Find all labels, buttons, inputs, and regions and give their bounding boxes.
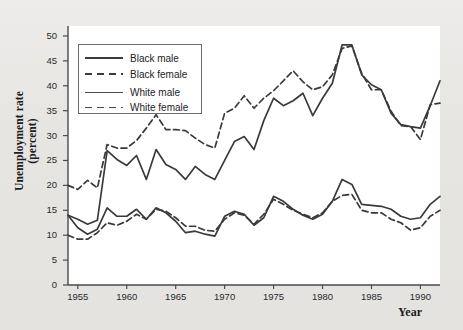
- x-axis-label: Year: [398, 305, 422, 320]
- legend: Black male Black female White male White…: [78, 44, 202, 114]
- legend-item-white-female: White female: [85, 100, 188, 114]
- y-axis-label-line2: (percent): [26, 46, 39, 236]
- x-tick-label: 1990: [400, 291, 440, 302]
- legend-swatch-dashed-icon: [85, 69, 123, 79]
- figure-page: 05101520253035404550 1955196019651970197…: [0, 0, 463, 330]
- x-tick-label: 1960: [107, 291, 147, 302]
- legend-label-white-female: White female: [130, 102, 188, 113]
- legend-item-white-male: White male: [85, 85, 180, 99]
- x-tick-label: 1965: [156, 291, 196, 302]
- x-tick-label: 1980: [303, 291, 343, 302]
- x-tick-label: 1970: [205, 291, 245, 302]
- legend-label-white-male: White male: [130, 87, 180, 98]
- legend-item-black-male: Black male: [85, 51, 179, 65]
- y-tick-label: 5: [35, 254, 57, 265]
- legend-swatch-solid-icon: [85, 53, 123, 63]
- x-tick-label: 1975: [254, 291, 294, 302]
- y-tick-label: 0: [35, 279, 57, 290]
- chart-canvas: [0, 0, 463, 330]
- legend-label-black-male: Black male: [130, 53, 179, 64]
- y-axis-label: Unemployment rate (percent): [13, 46, 39, 236]
- x-tick-label: 1985: [351, 291, 391, 302]
- legend-swatch-solid-thin-icon: [85, 87, 123, 97]
- x-tick-label: 1955: [58, 291, 98, 302]
- legend-item-black-female: Black female: [85, 67, 187, 81]
- y-tick-label: 50: [35, 30, 57, 41]
- legend-swatch-dashed-thin-icon: [85, 102, 123, 112]
- y-tick-marks: [63, 36, 68, 285]
- legend-label-black-female: Black female: [130, 69, 187, 80]
- unemployment-rate-chart: 05101520253035404550 1955196019651970197…: [0, 0, 463, 330]
- series-line-white-male: [68, 179, 440, 236]
- y-axis-label-line1: Unemployment rate: [13, 91, 25, 191]
